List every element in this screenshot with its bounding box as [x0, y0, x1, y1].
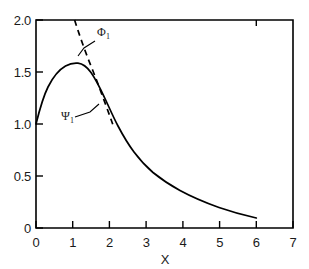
x-tick-label-5: 5	[216, 235, 223, 250]
x-tick-label-1: 1	[69, 235, 76, 250]
x-tick-label-7: 7	[290, 235, 297, 250]
x-axis-title: X	[161, 252, 170, 267]
x-axis-ticks	[36, 221, 293, 228]
y-tick-label-0.5: 0.5	[14, 169, 31, 184]
psi-1-label-subscript: 1	[70, 116, 74, 125]
y-tick-label-1.0: 1.0	[14, 117, 31, 132]
axis-frame	[36, 20, 293, 228]
psi-1-leader-line	[75, 104, 99, 117]
x-tick-labels: 0 1 2 3 4 5 6 7	[33, 235, 297, 250]
plot-canvas: 2.0 1.5 1.0 0.5 0 0 1 2 3 4 5 6 7 X Φ 1	[0, 0, 309, 269]
phi-1-label-text: Φ	[97, 25, 106, 39]
series-curve-psi-1	[36, 63, 256, 218]
psi-1-label-text: Ψ	[61, 109, 70, 123]
psi-1-label: Ψ 1	[61, 109, 74, 125]
x-tick-label-4: 4	[179, 235, 186, 250]
phi-1-label: Φ 1	[97, 25, 110, 41]
frame-border	[36, 20, 293, 228]
y-tick-label-0: 0	[24, 221, 31, 236]
y-tick-labels: 2.0 1.5 1.0 0.5 0	[14, 13, 31, 236]
y-tick-label-2.0: 2.0	[14, 13, 31, 28]
y-tick-label-1.5: 1.5	[14, 65, 31, 80]
phi-1-label-subscript: 1	[106, 32, 110, 41]
x-tick-label-3: 3	[143, 235, 150, 250]
x-tick-label-6: 6	[253, 235, 260, 250]
y-axis-ticks	[36, 20, 43, 228]
x-tick-label-2: 2	[106, 235, 113, 250]
chart-figure: 2.0 1.5 1.0 0.5 0 0 1 2 3 4 5 6 7 X Φ 1	[0, 0, 309, 269]
x-tick-label-0: 0	[33, 235, 40, 250]
